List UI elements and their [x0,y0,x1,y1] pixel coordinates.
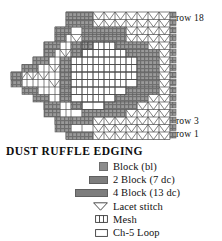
legend-label-lacet: Lacet stitch [113,201,163,212]
row-label-3: row 3 [176,116,199,126]
legend-item-lacet: Lacet stitch [0,200,222,213]
block-2-swatch-icon [0,176,108,184]
legend-label-block: Block (bl) [113,161,157,172]
legend-item-ch5loop: Ch-5 Loop [0,226,222,239]
legend-label-mesh: Mesh [113,214,137,225]
legend-item-block: Block (bl) [0,160,222,173]
filet-crochet-chart: row 18 row 3 row 1 [0,0,222,150]
chart-title: DUST RUFFLE EDGING [6,145,143,157]
legend-label-ch5loop: Ch-5 Loop [113,227,160,238]
legend: Block (bl) 2 Block (7 dc) 4 Block (13 dc… [0,160,222,239]
block-1-swatch-icon [0,162,108,171]
chart-grid [0,0,222,150]
chart-plot-area [11,12,176,140]
legend-label-2block: 2 Block (7 dc) [113,174,175,185]
mesh-swatch-icon [0,215,108,223]
lacet-stitch-swatch-icon [0,202,108,211]
row-label-1: row 1 [176,129,199,139]
ch5-loop-swatch-icon [0,229,108,237]
legend-item-2block: 2 Block (7 dc) [0,173,222,186]
legend-label-4block: 4 Block (13 dc) [113,187,180,198]
block-4-swatch-icon [0,189,108,197]
legend-item-mesh: Mesh [0,213,222,226]
legend-item-4block: 4 Block (13 dc) [0,186,222,199]
row-label-18: row 18 [176,13,204,23]
